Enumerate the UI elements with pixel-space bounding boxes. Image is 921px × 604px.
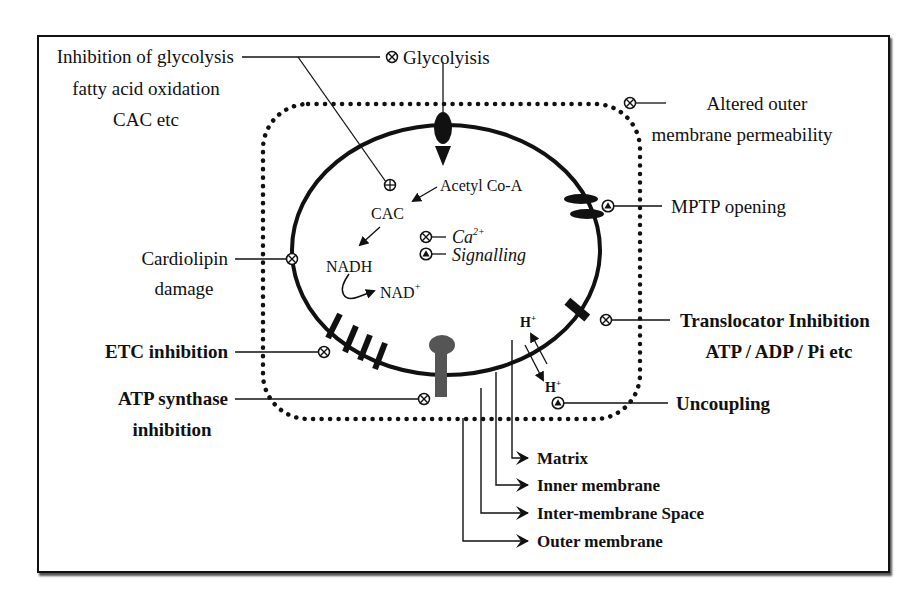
label-etc: ETC inhibition bbox=[105, 341, 228, 362]
label-atp-synthase-line1: ATP synthase bbox=[118, 388, 228, 409]
glycolysis-transporter bbox=[434, 112, 452, 144]
translocator-inhibition-icon bbox=[601, 315, 612, 326]
mptp-pore-top bbox=[564, 194, 598, 204]
signalling-activation-icon bbox=[420, 248, 432, 260]
mitochondria-diagram: Inhibition of glycolysis fatty acid oxid… bbox=[0, 0, 921, 604]
label-h-plus-bottom: H+ bbox=[545, 378, 561, 395]
label-inner-membrane: Inner membrane bbox=[537, 476, 660, 495]
calcium-inhibition-icon bbox=[421, 232, 432, 243]
glycolysis-arrowhead bbox=[435, 146, 451, 166]
label-atp-synthase-line2: inhibition bbox=[132, 419, 212, 440]
label-nadh: NADH bbox=[326, 258, 373, 275]
label-outer-membrane: Outer membrane bbox=[537, 532, 663, 551]
label-translocator-line2: ATP / ADP / Pi etc bbox=[706, 341, 853, 362]
atp-synthase-inhibition-icon bbox=[419, 394, 430, 405]
label-uncoupling: Uncoupling bbox=[676, 393, 770, 414]
label-mptp: MPTP opening bbox=[671, 196, 786, 217]
etc-complexes bbox=[328, 314, 385, 369]
glycolysis-inhibition-icon bbox=[387, 52, 398, 63]
label-calcium: Ca2+ bbox=[452, 226, 485, 247]
outer-membrane-permeability-icon bbox=[625, 98, 636, 109]
mptp-pore-bottom bbox=[570, 209, 604, 219]
cac-inhibition-icon bbox=[385, 180, 396, 191]
label-inter-membrane-space: Inter-membrane Space bbox=[537, 504, 704, 523]
label-h-plus-top: H+ bbox=[520, 313, 536, 330]
mptp-activation-icon bbox=[602, 200, 614, 212]
label-acetyl-coa: Acetyl Co-A bbox=[440, 177, 523, 195]
label-glycolysis: Glycolyisis bbox=[403, 47, 490, 68]
atp-synthase bbox=[429, 335, 455, 397]
label-cac: CAC bbox=[371, 205, 404, 222]
label-cardiolipin-line2: damage bbox=[154, 278, 213, 299]
uncoupling-activation-icon bbox=[552, 397, 564, 409]
label-signalling: Signalling bbox=[452, 245, 526, 265]
label-altered-outer-line1: Altered outer bbox=[707, 93, 808, 114]
label-translocator-line1: Translocator Inhibition bbox=[680, 310, 870, 331]
label-altered-outer-line2: membrane permeability bbox=[652, 124, 833, 145]
label-inhibition-glycolysis-line1: Inhibition of glycolysis bbox=[57, 46, 234, 67]
label-cardiolipin-line1: Cardiolipin bbox=[141, 248, 228, 269]
etc-inhibition-icon bbox=[319, 347, 330, 358]
label-inhibition-glycolysis-line3: CAC etc bbox=[113, 109, 179, 130]
cardiolipin-inhibition-icon bbox=[287, 254, 298, 265]
label-inhibition-glycolysis-line2: fatty acid oxidation bbox=[72, 78, 220, 99]
label-nad: NAD+ bbox=[380, 281, 421, 301]
label-matrix: Matrix bbox=[537, 449, 588, 468]
